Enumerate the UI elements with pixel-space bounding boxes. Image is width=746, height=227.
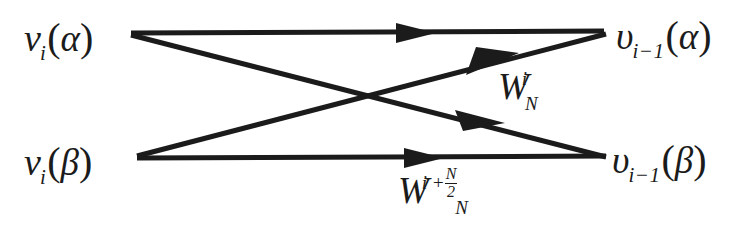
twiddle-subscript: N bbox=[455, 197, 468, 218]
node-argument: β bbox=[675, 140, 693, 181]
node-open-paren: ( bbox=[47, 15, 60, 60]
fraction-numerator: N bbox=[445, 166, 458, 183]
twiddle-factor-label-bottom: Wi +N2N bbox=[398, 172, 476, 216]
node-subscript: i bbox=[40, 41, 46, 65]
arrowhead-top-straight-icon bbox=[396, 23, 436, 43]
node-open-paren: ( bbox=[665, 13, 678, 58]
twiddle-factor-label-top: WiN bbox=[498, 68, 546, 105]
twiddle-superscript-term: i + bbox=[422, 172, 445, 193]
twiddle-superscript: i bbox=[522, 68, 527, 89]
twiddle-superscript-fraction: N2 bbox=[445, 172, 458, 193]
top-straight-edge bbox=[131, 23, 604, 43]
node-base-symbol: υ bbox=[616, 15, 633, 57]
node-base-symbol: v bbox=[24, 141, 41, 183]
node-label-bottom-left: vi(β) bbox=[24, 142, 92, 183]
node-close-paren: ) bbox=[698, 13, 711, 58]
node-close-paren: ) bbox=[79, 139, 92, 184]
node-subscript: i−1 bbox=[628, 163, 660, 187]
node-open-paren: ( bbox=[661, 137, 674, 182]
twiddle-subscript: N bbox=[525, 93, 538, 114]
node-base-symbol: υ bbox=[612, 139, 629, 181]
node-subscript: i−1 bbox=[632, 39, 664, 63]
node-argument: α bbox=[679, 16, 698, 57]
node-label-top-left: vi(α) bbox=[24, 18, 93, 59]
node-subscript: i bbox=[40, 165, 46, 189]
butterfly-diagram-canvas: vi(α) vi(β) υi−1(α) υi−1(β) WiN Wi +N2N bbox=[0, 0, 746, 227]
fraction: N2 bbox=[445, 166, 458, 201]
node-close-paren: ) bbox=[693, 137, 706, 182]
arrowhead-bottom-straight-icon bbox=[404, 148, 444, 168]
node-label-bottom-right: υi−1(β) bbox=[612, 140, 707, 181]
node-argument: β bbox=[61, 142, 79, 183]
node-base-symbol: v bbox=[24, 17, 41, 59]
node-open-paren: ( bbox=[47, 139, 60, 184]
node-label-top-right: υi−1(α) bbox=[616, 16, 712, 57]
bottom-straight-edge bbox=[137, 148, 606, 168]
node-argument: α bbox=[61, 18, 80, 59]
node-close-paren: ) bbox=[80, 15, 93, 60]
